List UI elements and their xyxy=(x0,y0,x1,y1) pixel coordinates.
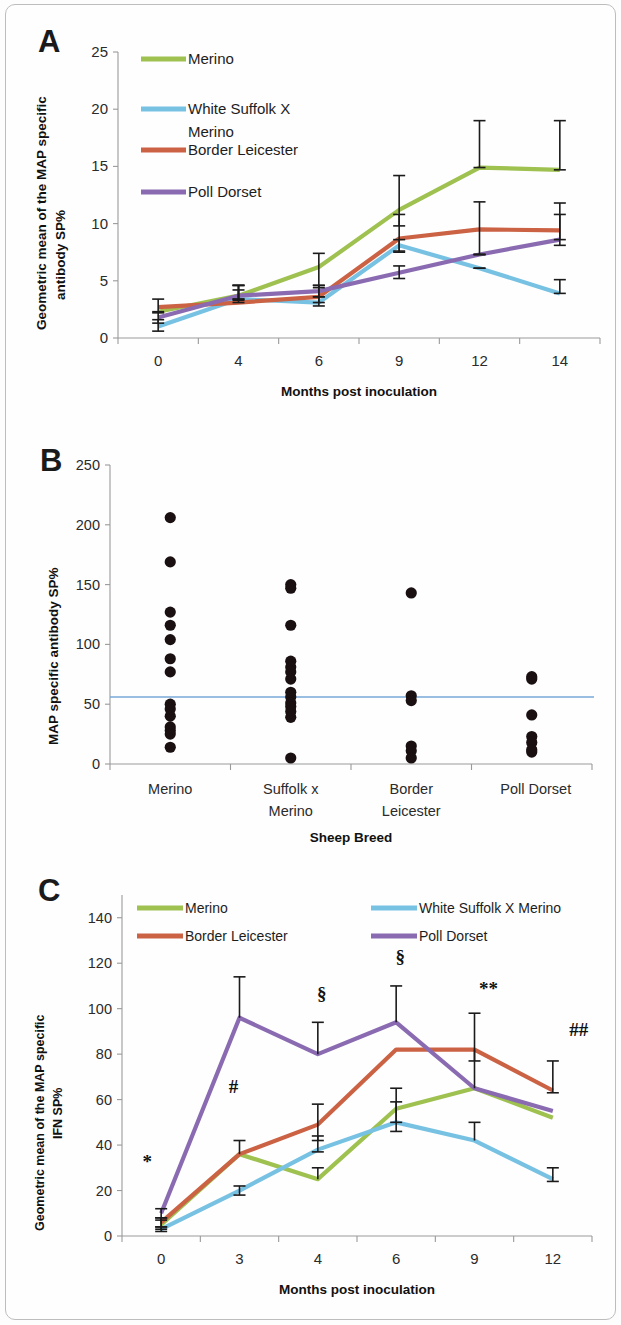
panel-b-dot-group xyxy=(406,587,417,763)
svg-text:antibody SP%: antibody SP% xyxy=(53,210,68,300)
panel-b-x-axis-title: Sheep Breed xyxy=(310,830,393,845)
panel-a-error-bar xyxy=(474,121,486,168)
panel-c-series-line xyxy=(161,1018,553,1214)
panel-c-error-bar xyxy=(234,977,246,1018)
panel-b-chart: BMAP specific antibody SP%05010015020025… xyxy=(0,425,621,853)
panel-a-y-tick-label: 20 xyxy=(91,100,108,117)
panel-c-significance-marker: § xyxy=(395,946,405,967)
panel-c-y-tick-label: 20 xyxy=(96,1183,112,1199)
panel-c-x-tick-label: 12 xyxy=(544,1250,561,1267)
panel-b-y-tick-label: 150 xyxy=(76,577,100,593)
panel-c-x-tick-label: 4 xyxy=(314,1250,322,1267)
panel-c-x-tick-label: 3 xyxy=(235,1250,243,1267)
panel-b-letter: B xyxy=(40,443,62,478)
panel-c-legend-label: Poll Dorset xyxy=(419,928,488,944)
panel-a-legend-label: White Suffolk X xyxy=(188,100,290,117)
panel-a: AGeometric mean of the MAP specificantib… xyxy=(0,0,621,425)
panel-a-series-line xyxy=(158,245,560,326)
panel-c-error-bar xyxy=(390,986,402,1022)
panel-c-y-tick-label: 140 xyxy=(88,910,112,926)
panel-b-dot-group xyxy=(526,671,537,758)
panel-a-chart: AGeometric mean of the MAP specificantib… xyxy=(0,0,621,425)
panel-b-data-point xyxy=(165,556,176,567)
panel-b-category-label: Border xyxy=(389,781,433,797)
panel-c-y-axis-title-line2: IFN SP% xyxy=(51,1088,65,1139)
panel-b-data-point xyxy=(406,695,417,706)
panel-c-significance-marker: ** xyxy=(479,978,498,999)
panel-c-x-axis-title: Months post inoculation xyxy=(279,1282,435,1297)
panel-c-y-axis-title: Geometric mean of the MAP specific xyxy=(33,1014,47,1231)
panel-b-dot-group xyxy=(285,579,296,764)
panel-b-category-label: Leicester xyxy=(382,803,441,819)
panel-c-y-tick-label: 100 xyxy=(88,1001,112,1017)
panel-a-y-tick-label: 10 xyxy=(91,215,108,232)
svg-text:Geometric mean of the MAP spec: Geometric mean of the MAP specific xyxy=(34,96,49,330)
panel-a-x-tick-label: 0 xyxy=(154,352,162,369)
panel-c-significance-marker: * xyxy=(142,1151,152,1172)
panel-b-data-point xyxy=(165,620,176,631)
panel-b-data-point xyxy=(165,634,176,645)
panel-b-y-tick-label: 100 xyxy=(76,636,100,652)
panel-b-data-point xyxy=(526,746,537,757)
panel-b-data-point xyxy=(285,752,296,763)
panel-b-y-tick-label: 250 xyxy=(76,457,100,473)
panel-c-y-tick-label: 120 xyxy=(88,955,112,971)
panel-b-y-axis-title: MAP specific antibody SP% xyxy=(46,567,61,745)
panel-c-x-tick-label: 6 xyxy=(392,1250,400,1267)
panel-c-legend-label: White Suffolk X Merino xyxy=(419,900,561,916)
panel-b-data-point xyxy=(285,673,296,684)
panel-c-y-tick-label: 40 xyxy=(96,1137,112,1153)
panel-a-x-tick-label: 14 xyxy=(551,352,568,369)
panel-c-significance-marker: ## xyxy=(569,1019,589,1040)
panel-b-dot-group xyxy=(165,512,176,753)
panel-a-y-tick-label: 5 xyxy=(100,272,108,289)
panel-b-data-point xyxy=(165,742,176,753)
panel-a-x-tick-label: 12 xyxy=(471,352,488,369)
panel-b-category-label: Poll Dorset xyxy=(500,781,571,797)
panel-b-data-point xyxy=(165,729,176,740)
panel-c-letter: C xyxy=(38,873,60,908)
panel-b-data-point xyxy=(165,607,176,618)
panel-a-y-tick-label: 25 xyxy=(91,43,108,60)
panel-c-series-line xyxy=(161,1088,553,1224)
panel-c-legend: MerinoWhite Suffolk X MerinoBorder Leice… xyxy=(137,900,561,944)
panel-c-y-tick-label: 60 xyxy=(96,1092,112,1108)
panel-c-y-tick-label: 0 xyxy=(104,1228,112,1244)
panel-a-legend-label: Merino xyxy=(188,50,234,67)
panel-b-y-tick-label: 200 xyxy=(76,517,100,533)
panel-c: CGeometric mean of the MAP specificIFN S… xyxy=(0,853,621,1325)
panel-c-chart: CGeometric mean of the MAP specificIFN S… xyxy=(0,853,621,1325)
panel-a-legend-label: Poll Dorset xyxy=(188,183,262,200)
panel-c-legend-label: Merino xyxy=(185,900,228,916)
panel-a-error-bar xyxy=(554,121,566,170)
panel-b-data-point xyxy=(285,712,296,723)
panel-b-y-tick-label: 50 xyxy=(84,696,100,712)
panel-b-data-point xyxy=(285,620,296,631)
panel-c-series-line xyxy=(161,1122,553,1229)
panel-b-data-point xyxy=(165,711,176,722)
panel-b-data-point xyxy=(165,653,176,664)
panel-c-x-tick-label: 9 xyxy=(470,1250,478,1267)
panel-c-x-tick-label: 0 xyxy=(157,1250,165,1267)
panel-b: BMAP specific antibody SP%05010015020025… xyxy=(0,425,621,853)
panel-c-legend-label: Border Leicester xyxy=(185,928,288,944)
panel-a-legend-label: Border Leicester xyxy=(188,141,298,158)
panel-b-category-label: Suffolk x xyxy=(263,781,319,797)
panel-a-error-bar xyxy=(554,214,566,239)
panel-c-y-tick-label: 80 xyxy=(96,1046,112,1062)
panel-b-data-point xyxy=(526,709,537,720)
panel-c-significance-marker: § xyxy=(317,983,327,1004)
panel-a-x-axis-title: Months post inoculation xyxy=(281,384,437,399)
panel-b-data-point xyxy=(526,673,537,684)
panel-a-y-axis-title: Geometric mean of the MAP specificantibo… xyxy=(34,96,68,330)
panel-a-y-tick-label: 15 xyxy=(91,157,108,174)
panel-b-data-point xyxy=(406,587,417,598)
panel-a-x-tick-label: 4 xyxy=(234,352,242,369)
panel-b-data-point xyxy=(406,752,417,763)
panel-c-significance-marker: # xyxy=(229,1076,239,1097)
panel-b-data-point xyxy=(165,666,176,677)
panel-a-legend: MerinoWhite Suffolk XMerinoBorder Leices… xyxy=(141,50,298,200)
panel-a-y-tick-label: 0 xyxy=(100,329,108,346)
panel-a-x-tick-label: 9 xyxy=(395,352,403,369)
panel-b-category-label: Merino xyxy=(269,803,313,819)
